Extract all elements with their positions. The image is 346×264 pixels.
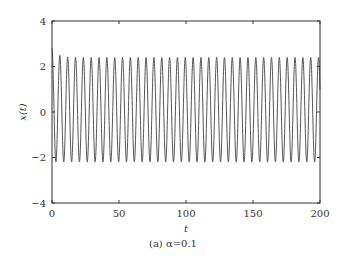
svg-text:0: 0 [49, 208, 55, 219]
data-series-line [52, 48, 320, 162]
svg-text:4: 4 [40, 16, 46, 27]
svg-text:150: 150 [243, 208, 262, 219]
svg-text:50: 50 [113, 208, 126, 219]
svg-text:−2: −2 [31, 152, 46, 163]
svg-text:100: 100 [176, 208, 195, 219]
y-axis-label: x(t) [17, 103, 28, 121]
plot-frame [52, 21, 320, 203]
svg-text:−4: −4 [31, 198, 46, 209]
svg-text:0: 0 [40, 107, 46, 118]
figure-caption: (a) α=0.1 [0, 238, 346, 249]
svg-text:200: 200 [310, 208, 329, 219]
x-axis-label: t [184, 223, 189, 234]
svg-text:2: 2 [40, 61, 46, 72]
line-chart: 050100150200−4−2024 x(t) t [0, 0, 346, 264]
